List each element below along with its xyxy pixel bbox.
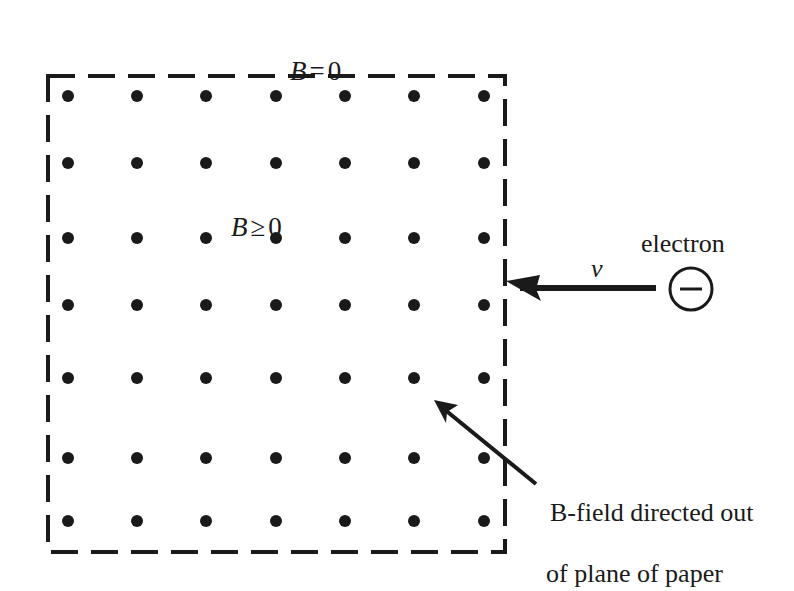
field-dot <box>62 515 74 527</box>
field-dot <box>478 515 490 527</box>
field-dot <box>478 452 490 464</box>
field-dot <box>270 157 282 169</box>
field-dot <box>408 157 420 169</box>
label-b-equals-zero: B=0 <box>263 24 341 120</box>
field-dot <box>339 515 351 527</box>
field-dot <box>478 232 490 244</box>
b-value: 0 <box>328 56 342 86</box>
dashed-field-boundary <box>48 76 505 552</box>
field-dot <box>200 372 212 384</box>
bfield-note-line-2: of plane of paper <box>524 559 754 590</box>
field-dot <box>408 90 420 102</box>
field-dot <box>200 90 212 102</box>
field-dot <box>131 452 143 464</box>
field-dot <box>200 299 212 311</box>
b-symbol: B <box>231 212 248 242</box>
b-operator: ≥ <box>248 212 269 242</box>
field-dot <box>270 515 282 527</box>
electron-label: electron <box>641 229 725 260</box>
field-dot <box>478 372 490 384</box>
electron-marker <box>670 268 712 310</box>
field-dot <box>408 515 420 527</box>
field-dot <box>478 90 490 102</box>
field-dot <box>131 157 143 169</box>
field-dot <box>478 157 490 169</box>
field-dot <box>62 372 74 384</box>
velocity-label: v <box>591 254 603 285</box>
field-dot <box>131 299 143 311</box>
field-dot-grid <box>62 90 490 527</box>
arrowhead-icon <box>506 275 541 301</box>
bfield-note: B-field directed out of plane of paper <box>524 467 754 591</box>
field-dot <box>62 452 74 464</box>
field-dot <box>408 232 420 244</box>
field-dot <box>131 90 143 102</box>
field-dot <box>408 372 420 384</box>
field-dot <box>62 90 74 102</box>
b-value: 0 <box>268 212 282 242</box>
field-dot <box>62 232 74 244</box>
field-dot <box>408 452 420 464</box>
field-dot <box>339 372 351 384</box>
b-symbol: B <box>290 56 307 86</box>
field-dot <box>270 372 282 384</box>
field-dot <box>62 157 74 169</box>
field-dot <box>339 452 351 464</box>
field-dot <box>131 232 143 244</box>
field-dot <box>339 232 351 244</box>
bfield-pointer-arrow <box>434 400 536 484</box>
velocity-arrow <box>506 275 656 301</box>
field-dot <box>408 299 420 311</box>
field-dot <box>339 157 351 169</box>
b-operator: = <box>307 56 328 86</box>
field-dot <box>270 452 282 464</box>
field-dot <box>131 515 143 527</box>
field-dot <box>131 372 143 384</box>
field-dot <box>478 299 490 311</box>
field-dot <box>270 299 282 311</box>
label-b-greater-equal-zero: B≥0 <box>204 180 282 276</box>
field-dot <box>200 515 212 527</box>
field-dot <box>339 299 351 311</box>
field-dot <box>62 299 74 311</box>
bfield-note-line-1: B-field directed out <box>550 498 754 527</box>
field-dot <box>200 452 212 464</box>
field-dot <box>200 157 212 169</box>
